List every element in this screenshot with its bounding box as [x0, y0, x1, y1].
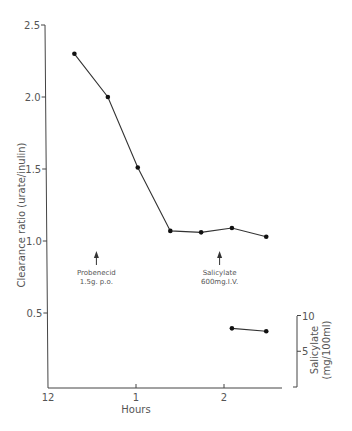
x-axis-title: Hours: [121, 404, 150, 415]
svg-text:600mg.I.V.: 600mg.I.V.: [201, 278, 238, 286]
svg-text:Salicylate: Salicylate: [309, 326, 320, 374]
x-axis-ticks: 1212: [42, 384, 228, 403]
annotation: Salicylate600mg.I.V.: [201, 251, 238, 286]
y2-tick-label: 10: [302, 311, 315, 322]
data-point: [264, 234, 269, 239]
data-point: [230, 226, 235, 231]
data-point: [264, 329, 269, 334]
x-tick-label: 2: [221, 392, 227, 403]
y-axis-ticks: 0.51.01.52.02.5: [24, 20, 47, 319]
data-point: [72, 52, 77, 57]
svg-text:Salicylate: Salicylate: [203, 269, 237, 277]
x-tick-label: 12: [42, 392, 55, 403]
y-tick-label: 2.0: [25, 92, 41, 103]
data-point: [199, 230, 204, 235]
y-tick-label: 1.5: [25, 164, 41, 175]
y-tick-label: 0.5: [26, 308, 42, 319]
y-tick-label: 1.0: [26, 236, 42, 247]
y-axis-title: Clearance ratio (urate/inulin): [16, 142, 27, 287]
series-line: [232, 328, 266, 331]
data-point: [135, 165, 140, 170]
x-tick-label: 1: [133, 392, 139, 403]
data-point: [230, 326, 235, 331]
data-point: [106, 95, 111, 100]
svg-text:(mg/100ml): (mg/100ml): [321, 320, 332, 379]
annotations: Probenecid1.5g. p.o.Salicylate600mg.I.V.: [77, 251, 238, 286]
y2-axis-title: Salicylate (mg/100ml): [309, 320, 332, 379]
annotation: Probenecid1.5g. p.o.: [77, 251, 116, 286]
series-line: [74, 54, 266, 237]
data-point: [168, 229, 173, 234]
svg-text:1.5g. p.o.: 1.5g. p.o.: [80, 278, 113, 286]
y2-tick-label: 5: [302, 346, 308, 357]
svg-text:Probenecid: Probenecid: [77, 269, 116, 277]
y-axis-left: [45, 25, 48, 388]
data-series: [72, 52, 268, 334]
y-tick-label: 2.5: [24, 20, 40, 31]
clearance-ratio-chart: 0.51.01.52.02.5 1212 510 Probenecid1.5g.…: [0, 0, 352, 431]
